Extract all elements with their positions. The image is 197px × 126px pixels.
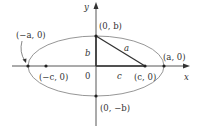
label-vertex-right: (a, 0) xyxy=(163,52,186,62)
point-covertex-top xyxy=(94,34,97,37)
y-axis-arrow-icon xyxy=(94,2,99,9)
label-segment-c: c xyxy=(117,71,122,81)
x-axis-label: x xyxy=(184,72,189,82)
point-covertex-bottom xyxy=(94,94,97,97)
point-focus-left xyxy=(44,64,47,67)
pointer-arrow-icon xyxy=(21,41,25,61)
label-covertex-top: (0, b) xyxy=(99,21,122,31)
label-covertex-bottom: (0, −b) xyxy=(100,103,130,113)
x-axis-arrow-icon xyxy=(183,64,190,69)
ellipse-diagram: y x 0 (0, b) (0, −b) (−a, 0) (a, 0) (−c,… xyxy=(0,0,197,126)
point-vertex-left xyxy=(26,64,29,67)
label-vertex-left: (−a, 0) xyxy=(16,30,46,40)
label-segment-a: a xyxy=(124,43,129,53)
ellipse-figure: y x 0 (0, b) (0, −b) (−a, 0) (a, 0) (−c,… xyxy=(0,0,197,126)
label-focus-left: (−c, 0) xyxy=(39,72,68,82)
label-focus-right: (c, 0) xyxy=(134,72,156,82)
label-segment-b: b xyxy=(85,48,90,58)
y-axis-label: y xyxy=(83,2,89,12)
origin-label: 0 xyxy=(85,71,90,81)
point-focus-right xyxy=(143,64,146,67)
point-vertex-right xyxy=(162,64,165,67)
pointer-arrowhead-icon xyxy=(23,59,27,64)
segment-a xyxy=(96,36,145,66)
